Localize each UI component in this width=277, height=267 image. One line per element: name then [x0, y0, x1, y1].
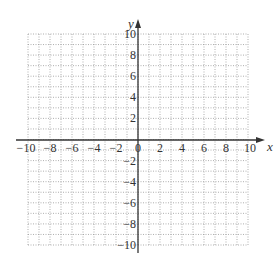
- x-tick-label: −6: [66, 141, 79, 155]
- y-tick-label: 2: [130, 111, 136, 125]
- y-tick-label: −4: [123, 175, 136, 189]
- y-tick-label: 6: [130, 69, 136, 83]
- x-tick-labels: −10−8−6−4−20246810: [17, 141, 256, 155]
- x-axis-label: x: [266, 139, 273, 154]
- x-tick-label: 8: [223, 141, 229, 155]
- x-tick-label: 10: [244, 141, 256, 155]
- x-tick-label: 6: [201, 141, 207, 155]
- x-tick-label: −2: [110, 141, 123, 155]
- y-tick-label: 4: [130, 90, 136, 104]
- x-axis-arrow-icon: [256, 137, 265, 143]
- y-tick-label: −10: [117, 238, 136, 252]
- y-tick-label: −8: [123, 217, 136, 231]
- axes: x y: [16, 16, 273, 253]
- y-tick-label: 10: [124, 27, 136, 41]
- x-tick-label: −8: [44, 141, 57, 155]
- coordinate-plane: x y −10−8−6−4−20246810 −10−8−6−4−2246810: [0, 0, 277, 267]
- x-tick-label: 2: [157, 141, 163, 155]
- y-tick-label: 8: [130, 48, 136, 62]
- x-tick-label: −10: [17, 141, 36, 155]
- y-tick-label: −6: [123, 196, 136, 210]
- x-tick-label: 4: [179, 141, 185, 155]
- y-tick-label: −2: [123, 154, 136, 168]
- x-tick-label: −4: [88, 141, 101, 155]
